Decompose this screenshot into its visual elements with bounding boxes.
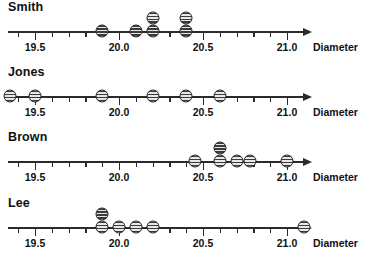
axis-tick-major [203, 229, 204, 237]
axis-tick-minor [18, 229, 19, 233]
axis-arrow-icon [303, 158, 312, 166]
data-point [297, 221, 310, 234]
axis-tick-minor [237, 33, 238, 37]
axis-title: Diameter [313, 106, 358, 118]
axis-tick-major [35, 163, 36, 171]
axis-tick-label: 20.5 [193, 237, 213, 249]
axis-tick-major [287, 98, 288, 106]
data-point [3, 90, 16, 103]
data-point [213, 155, 226, 168]
axis-title: Diameter [313, 41, 358, 53]
axis-tick-label: 21.0 [277, 41, 297, 53]
axis-tick-label: 19.5 [25, 106, 45, 118]
axis-tick-minor [18, 163, 19, 167]
axis-tick-label: 20.0 [109, 106, 129, 118]
panel-label: Jones [8, 65, 45, 79]
axis-tick-minor [186, 229, 187, 233]
axis-tick-minor [136, 163, 137, 167]
data-point [96, 25, 109, 38]
data-point [180, 11, 193, 24]
axis-tick-label: 20.5 [193, 106, 213, 118]
data-point [129, 25, 142, 38]
axis-tick-minor [169, 163, 170, 167]
data-point [29, 90, 42, 103]
axis-tick-minor [237, 98, 238, 102]
axis-arrow-icon [303, 93, 312, 101]
axis-tick-minor [237, 229, 238, 233]
data-point [146, 25, 159, 38]
panel-jones: Jones19.520.020.521.0Diameter [0, 65, 377, 130]
axis-tick-minor [253, 98, 254, 102]
axis-tick-label: 20.5 [193, 41, 213, 53]
axis-tick-minor [85, 98, 86, 102]
axis-tick-minor [169, 229, 170, 233]
axis-tick-major [203, 98, 204, 106]
axis-tick-minor [18, 98, 19, 102]
axis-title: Diameter [313, 237, 358, 249]
axis-tick-minor [69, 163, 70, 167]
axis-tick-minor [69, 33, 70, 37]
axis-tick-label: 21.0 [277, 237, 297, 249]
axis-tick-label: 21.0 [277, 106, 297, 118]
data-point [146, 221, 159, 234]
axis-tick-minor [85, 229, 86, 233]
axis-tick-minor [186, 163, 187, 167]
axis-tick-label: 19.5 [25, 237, 45, 249]
axis-tick-label: 20.5 [193, 171, 213, 183]
axis-tick-minor [52, 98, 53, 102]
data-point [96, 221, 109, 234]
data-point [180, 25, 193, 38]
axis-tick-minor [52, 163, 53, 167]
data-point [188, 155, 201, 168]
axis-tick-minor [18, 33, 19, 37]
axis-tick-minor [136, 98, 137, 102]
panel-brown: Brown19.520.020.521.0Diameter [0, 130, 377, 195]
axis-tick-major [287, 229, 288, 237]
axis-title: Diameter [313, 171, 358, 183]
axis-tick-minor [253, 33, 254, 37]
axis-tick-major [119, 163, 120, 171]
data-point [244, 155, 257, 168]
axis-tick-minor [270, 33, 271, 37]
axis-tick-minor [270, 163, 271, 167]
data-point [213, 141, 226, 154]
axis-tick-label: 20.0 [109, 237, 129, 249]
panel-label: Smith [8, 0, 43, 14]
axis-tick-minor [253, 229, 254, 233]
axis-tick-minor [169, 98, 170, 102]
data-point [96, 207, 109, 220]
axis-tick-minor [85, 163, 86, 167]
data-point [129, 221, 142, 234]
data-point [96, 90, 109, 103]
axis-tick-minor [270, 229, 271, 233]
panel-label: Brown [8, 130, 47, 144]
panel-lee: Lee19.520.020.521.0Diameter [0, 196, 377, 261]
axis-tick-minor [52, 33, 53, 37]
dotplot-chart: Smith19.520.020.521.0DiameterJones19.520… [0, 0, 377, 262]
panel-smith: Smith19.520.020.521.0Diameter [0, 0, 377, 65]
axis-tick-minor [220, 229, 221, 233]
axis-tick-major [35, 33, 36, 41]
data-point [146, 90, 159, 103]
axis-tick-minor [220, 33, 221, 37]
data-point [180, 90, 193, 103]
axis-tick-label: 19.5 [25, 171, 45, 183]
x-axis: 19.520.020.521.0Diameter [0, 161, 377, 195]
axis-tick-major [203, 33, 204, 41]
data-point [146, 11, 159, 24]
axis-tick-minor [52, 229, 53, 233]
axis-tick-minor [153, 163, 154, 167]
axis-tick-minor [102, 163, 103, 167]
axis-tick-label: 20.0 [109, 171, 129, 183]
data-point [113, 221, 126, 234]
axis-tick-minor [69, 98, 70, 102]
axis-tick-major [287, 33, 288, 41]
axis-tick-minor [69, 229, 70, 233]
data-point [281, 155, 294, 168]
axis-tick-minor [169, 33, 170, 37]
x-axis: 19.520.020.521.0Diameter [0, 227, 377, 261]
axis-tick-major [119, 33, 120, 41]
axis-tick-major [119, 98, 120, 106]
data-point [213, 90, 226, 103]
axis-tick-major [35, 229, 36, 237]
